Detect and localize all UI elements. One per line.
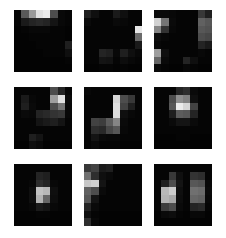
heatmap-cell [205, 41, 212, 49]
heatmap-cell [43, 95, 50, 103]
heatmap-cell [205, 26, 212, 34]
heatmap-cell [36, 64, 43, 72]
heatmap-cell [205, 95, 212, 103]
heatmap-cell [58, 164, 65, 172]
heatmap-cell [58, 33, 65, 41]
heatmap-cell [190, 41, 197, 49]
heatmap-cell [120, 203, 127, 211]
heatmap-panel-9[interactable] [154, 164, 212, 226]
heatmap-cell [128, 10, 135, 18]
heatmap-cell [169, 57, 176, 65]
heatmap-panel-7[interactable] [14, 164, 72, 226]
heatmap-cell [29, 118, 36, 126]
heatmap-cell [128, 203, 135, 211]
heatmap-cell [176, 18, 183, 26]
heatmap-cell [84, 164, 91, 172]
heatmap-cell [161, 126, 168, 134]
heatmap-cell [169, 172, 176, 180]
heatmap-cell [198, 211, 205, 219]
heatmap-cell [84, 118, 91, 126]
heatmap-cell [43, 187, 50, 195]
heatmap-cell [29, 203, 36, 211]
heatmap-cell [190, 57, 197, 65]
heatmap-panel-8[interactable] [84, 164, 142, 226]
heatmap-cell [198, 187, 205, 195]
heatmap-cell [43, 26, 50, 34]
heatmap-panel-1[interactable] [14, 10, 72, 72]
heatmap-cell [91, 180, 98, 188]
heatmap-panel-5[interactable] [84, 87, 142, 149]
heatmap-cell [113, 126, 120, 134]
heatmap-cell [113, 26, 120, 34]
heatmap-cell [169, 126, 176, 134]
heatmap-cell [58, 172, 65, 180]
heatmap-cell [50, 187, 57, 195]
heatmap-cell [65, 187, 72, 195]
heatmap-cell [106, 10, 113, 18]
heatmap-cell [120, 126, 127, 134]
heatmap-cell [29, 180, 36, 188]
heatmap-cell [205, 134, 212, 142]
heatmap-cell [128, 103, 135, 111]
heatmap-cell [65, 195, 72, 203]
heatmap-cell [135, 203, 142, 211]
heatmap-panel-2[interactable] [84, 10, 142, 72]
heatmap-cell [154, 41, 161, 49]
heatmap-cell [91, 203, 98, 211]
heatmap-cell [120, 218, 127, 226]
heatmap-cell [198, 180, 205, 188]
heatmap-cell [190, 26, 197, 34]
heatmap-cell [161, 164, 168, 172]
heatmap-cell [128, 218, 135, 226]
heatmap-cell [176, 172, 183, 180]
heatmap-cell [190, 195, 197, 203]
heatmap-cell [43, 180, 50, 188]
heatmap-cell [161, 134, 168, 142]
heatmap-cell [128, 95, 135, 103]
heatmap-cell [154, 18, 161, 26]
heatmap-cell [21, 134, 28, 142]
heatmap-cell [50, 103, 57, 111]
heatmap-cell [161, 141, 168, 149]
heatmap-cell [43, 87, 50, 95]
heatmap-cell [43, 164, 50, 172]
heatmap-cell [91, 64, 98, 72]
heatmap-cell [198, 164, 205, 172]
heatmap-cell [29, 64, 36, 72]
heatmap-cell [99, 203, 106, 211]
heatmap-panel-6[interactable] [154, 87, 212, 149]
heatmap-cell [113, 33, 120, 41]
heatmap-cell [91, 211, 98, 219]
heatmap-cell [50, 172, 57, 180]
heatmap-cell [58, 134, 65, 142]
heatmap-cell [58, 141, 65, 149]
heatmap-cell [120, 141, 127, 149]
heatmap-cell [21, 33, 28, 41]
heatmap-cell [91, 141, 98, 149]
heatmap-cell [176, 126, 183, 134]
heatmap-cell [198, 172, 205, 180]
heatmap-cell [205, 64, 212, 72]
heatmap-cell [91, 195, 98, 203]
heatmap-cell [65, 203, 72, 211]
heatmap-cell [205, 33, 212, 41]
heatmap-cell [14, 141, 21, 149]
heatmap-cell [50, 141, 57, 149]
heatmap-cell [113, 103, 120, 111]
heatmap-cell [169, 164, 176, 172]
heatmap-cell [135, 49, 142, 57]
heatmap-cell [91, 18, 98, 26]
heatmap-cell [176, 57, 183, 65]
heatmap-cell [29, 49, 36, 57]
heatmap-cell [176, 110, 183, 118]
heatmap-cell [135, 134, 142, 142]
heatmap-cell [50, 57, 57, 65]
heatmap-cell [169, 118, 176, 126]
heatmap-cell [14, 126, 21, 134]
heatmap-panel-4[interactable] [14, 87, 72, 149]
heatmap-cell [14, 187, 21, 195]
heatmap-cell [113, 10, 120, 18]
heatmap-cell [36, 18, 43, 26]
heatmap-cell [106, 41, 113, 49]
heatmap-panel-3[interactable] [154, 10, 212, 72]
